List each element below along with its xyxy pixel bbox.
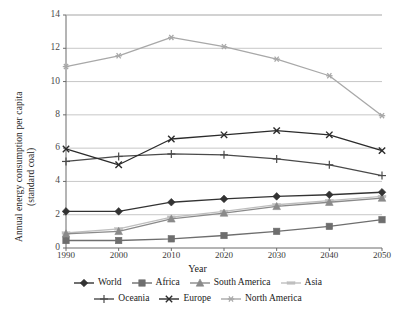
legend-label: South America xyxy=(214,278,271,288)
marker-square xyxy=(168,236,174,242)
legend-item-oceania[interactable]: Oceania xyxy=(93,293,149,305)
legend-item-europe[interactable]: Europe xyxy=(158,293,210,305)
legend-item-asia[interactable]: Asia xyxy=(280,277,322,289)
legend-marker-square-icon xyxy=(131,277,153,289)
legend-label: Europe xyxy=(183,294,210,304)
legend-marker-plus-icon xyxy=(93,293,115,305)
series-line xyxy=(66,37,382,115)
legend-label: North America xyxy=(245,294,302,304)
marker-diamond xyxy=(62,208,70,216)
marker-square xyxy=(221,232,227,238)
marker-dash xyxy=(287,282,295,285)
marker-square xyxy=(379,217,385,223)
marker-square xyxy=(138,280,144,286)
marker-diamond xyxy=(326,191,334,199)
series-africa xyxy=(63,217,385,244)
marker-diamond xyxy=(115,208,123,216)
legend-label: Africa xyxy=(156,278,180,288)
marker-diamond xyxy=(168,198,176,206)
marker-square xyxy=(115,237,121,243)
legend-item-north-america[interactable]: North America xyxy=(220,293,302,305)
legend-marker-diamond-icon xyxy=(73,277,95,289)
legend-label: World xyxy=(98,278,122,288)
legend-item-world[interactable]: World xyxy=(73,277,122,289)
legend-marker-cross-icon xyxy=(158,293,180,305)
chart-legend: WorldAfricaSouth AmericaAsia OceaniaEuro… xyxy=(0,275,395,307)
marker-diamond xyxy=(220,195,228,203)
chart-figure: Annual energy consumption per capita (st… xyxy=(0,0,395,318)
marker-diamond xyxy=(378,188,386,196)
legend-marker-asterisk-icon xyxy=(220,293,242,305)
marker-square xyxy=(326,223,332,229)
legend-marker-dash-icon xyxy=(280,277,302,289)
legend-row-2: OceaniaEuropeNorth America xyxy=(0,291,395,307)
series-oceania xyxy=(62,150,386,180)
legend-marker-triangle-icon xyxy=(189,277,211,289)
series-north-america xyxy=(63,35,385,118)
series-europe xyxy=(63,127,385,168)
legend-row-1: WorldAfricaSouth AmericaAsia xyxy=(0,275,395,291)
legend-item-africa[interactable]: Africa xyxy=(131,277,180,289)
x-axis-label: Year xyxy=(0,263,395,274)
marker-diamond xyxy=(80,279,88,287)
legend-label: Asia xyxy=(305,278,322,288)
legend-item-south-america[interactable]: South America xyxy=(189,277,271,289)
marker-square xyxy=(63,237,69,243)
marker-square xyxy=(273,228,279,234)
marker-diamond xyxy=(273,193,281,201)
legend-label: Oceania xyxy=(118,294,149,304)
